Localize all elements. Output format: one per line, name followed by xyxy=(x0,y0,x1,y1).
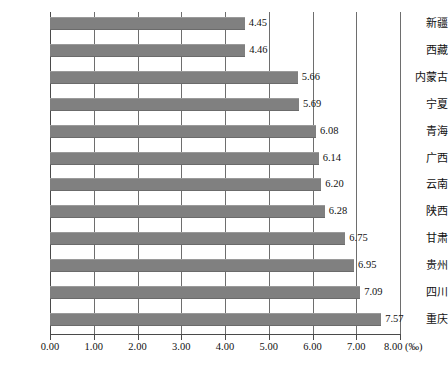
category-label-内蒙古: 内蒙古 xyxy=(402,71,448,85)
category-label-广西: 广西 xyxy=(402,152,448,166)
bar-宁夏[interactable] xyxy=(50,98,299,111)
bar-西藏[interactable] xyxy=(50,44,245,57)
bar-row[interactable]: 7.57 xyxy=(50,313,400,326)
x-tick-mark xyxy=(138,335,139,340)
x-tick-mark xyxy=(181,335,182,340)
category-label-云南: 云南 xyxy=(402,178,448,192)
category-label-四川: 四川 xyxy=(402,286,448,300)
bar-甘肃[interactable] xyxy=(50,232,345,245)
bar-chart-figure: 4.454.465.665.696.086.146.206.286.756.95… xyxy=(0,0,448,379)
x-tick-mark xyxy=(356,335,357,340)
bar-row[interactable]: 5.69 xyxy=(50,98,400,111)
x-tick-mark xyxy=(50,335,51,340)
bar-value-label: 4.45 xyxy=(249,16,267,30)
bar-row[interactable]: 7.09 xyxy=(50,286,400,299)
category-label-新疆: 新疆 xyxy=(402,17,448,31)
x-tick-mark xyxy=(400,335,401,340)
bar-row[interactable]: 4.46 xyxy=(50,44,400,57)
bar-row[interactable]: 6.75 xyxy=(50,232,400,245)
bar-row[interactable]: 6.95 xyxy=(50,259,400,272)
category-label-青海: 青海 xyxy=(402,125,448,139)
bar-四川[interactable] xyxy=(50,286,360,299)
bar-value-label: 6.95 xyxy=(358,258,376,272)
bar-value-label: 5.69 xyxy=(303,97,321,111)
category-label-甘肃: 甘肃 xyxy=(402,232,448,246)
bar-row[interactable]: 6.28 xyxy=(50,205,400,218)
plot-area: 4.454.465.665.696.086.146.206.286.756.95… xyxy=(50,12,400,334)
bar-value-label: 5.66 xyxy=(302,70,320,84)
category-label-宁夏: 宁夏 xyxy=(402,98,448,112)
x-tick-mark xyxy=(225,335,226,340)
bar-云南[interactable] xyxy=(50,178,321,191)
category-label-贵州: 贵州 xyxy=(402,259,448,273)
bar-陕西[interactable] xyxy=(50,205,325,218)
bar-贵州[interactable] xyxy=(50,259,354,272)
bar-重庆[interactable] xyxy=(50,313,381,326)
bar-青海[interactable] xyxy=(50,125,316,138)
bar-row[interactable]: 6.08 xyxy=(50,125,400,138)
x-tick-mark xyxy=(269,335,270,340)
category-label-重庆: 重庆 xyxy=(402,313,448,327)
bar-value-label: 6.08 xyxy=(320,124,338,138)
bar-value-label: 6.20 xyxy=(325,177,343,191)
bar-广西[interactable] xyxy=(50,152,319,165)
bar-value-label: 7.09 xyxy=(364,285,382,299)
x-tick-mark xyxy=(94,335,95,340)
bar-row[interactable]: 6.14 xyxy=(50,152,400,165)
bar-row[interactable]: 4.45 xyxy=(50,17,400,30)
category-label-陕西: 陕西 xyxy=(402,205,448,219)
bar-新疆[interactable] xyxy=(50,17,245,30)
bar-value-label: 6.14 xyxy=(323,151,341,165)
bar-内蒙古[interactable] xyxy=(50,71,298,84)
x-tick-label: 8.00 (‰) xyxy=(384,341,423,353)
bar-value-label: 6.75 xyxy=(349,231,367,245)
x-tick-label: 7.00 xyxy=(330,341,382,353)
bar-value-label: 6.28 xyxy=(329,204,347,218)
x-tick-mark xyxy=(313,335,314,340)
bar-value-label: 4.46 xyxy=(249,43,267,57)
gridline-8.00 xyxy=(400,12,401,334)
bar-value-label: 7.57 xyxy=(385,312,403,326)
bar-row[interactable]: 5.66 xyxy=(50,71,400,84)
category-label-西藏: 西藏 xyxy=(402,44,448,58)
bar-row[interactable]: 6.20 xyxy=(50,178,400,191)
